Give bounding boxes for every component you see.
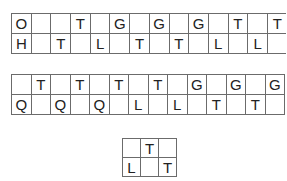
grid-cell: G bbox=[187, 75, 207, 95]
grid-cell bbox=[187, 95, 207, 115]
grid-cell: G bbox=[265, 75, 285, 95]
grid-cell bbox=[70, 95, 90, 115]
grid-cell: L bbox=[129, 95, 149, 115]
grid-cell: T bbox=[246, 95, 266, 115]
grid-cell: G bbox=[189, 14, 209, 34]
grid-cell: L bbox=[123, 158, 141, 177]
grid-cell: H bbox=[12, 34, 32, 54]
grid-cell bbox=[159, 139, 177, 158]
grid-cell bbox=[71, 34, 91, 54]
grid-cell: T bbox=[71, 14, 91, 34]
grid-cell: Q bbox=[12, 95, 32, 115]
grid-cell: T bbox=[148, 75, 168, 95]
grid-cell bbox=[141, 158, 159, 177]
grid-cell bbox=[208, 14, 228, 34]
grid-cell: O bbox=[12, 14, 32, 34]
grid-cell: T bbox=[130, 34, 150, 54]
grid-row: L T bbox=[123, 158, 177, 177]
grid-cell bbox=[130, 14, 150, 34]
grid-cell bbox=[90, 14, 110, 34]
grid-cell bbox=[129, 75, 149, 95]
grid-cell: T bbox=[159, 158, 177, 177]
grid-cell bbox=[267, 34, 286, 54]
grid-cell: G bbox=[110, 14, 130, 34]
grid-cell bbox=[169, 14, 189, 34]
grid-cell: L bbox=[168, 95, 188, 115]
grid-cell bbox=[228, 34, 248, 54]
grid-cell bbox=[168, 75, 188, 95]
grid-cell bbox=[149, 34, 169, 54]
letter-grid-1: O T G G G T T H T L T T L bbox=[11, 13, 286, 54]
letter-grid-3: T L T bbox=[122, 138, 177, 177]
grid-cell bbox=[246, 75, 266, 95]
grid-cell: G bbox=[226, 75, 246, 95]
grid-cell: L bbox=[248, 34, 268, 54]
grid-cell: T bbox=[31, 75, 51, 95]
grid-cell bbox=[123, 139, 141, 158]
grid-cell bbox=[207, 75, 227, 95]
grid-cell bbox=[248, 14, 268, 34]
grid-cell: T bbox=[228, 14, 248, 34]
grid-cell: T bbox=[51, 34, 71, 54]
grid-cell: Q bbox=[51, 95, 71, 115]
grid-row: T T T T G G G bbox=[12, 75, 285, 95]
grid-cell bbox=[265, 95, 285, 115]
grid-cell: T bbox=[207, 95, 227, 115]
grid-cell bbox=[90, 75, 110, 95]
grid-row: O T G G G T T bbox=[12, 14, 287, 34]
grid-cell bbox=[109, 95, 129, 115]
grid-row: Q Q Q L L T T bbox=[12, 95, 285, 115]
grid-cell: Q bbox=[90, 95, 110, 115]
grid-cell bbox=[31, 34, 51, 54]
grid-cell: T bbox=[70, 75, 90, 95]
grid-cell bbox=[226, 95, 246, 115]
grid-cell bbox=[51, 14, 71, 34]
grid-cell bbox=[31, 14, 51, 34]
grid-row: T bbox=[123, 139, 177, 158]
grid-cell: L bbox=[208, 34, 228, 54]
grid-cell: T bbox=[141, 139, 159, 158]
grid-cell bbox=[189, 34, 209, 54]
grid-cell: T bbox=[109, 75, 129, 95]
grid-cell bbox=[12, 75, 32, 95]
grid-cell bbox=[31, 95, 51, 115]
grid-cell: G bbox=[149, 14, 169, 34]
grid-cell: L bbox=[90, 34, 110, 54]
grid-cell: T bbox=[169, 34, 189, 54]
grid-cell: T bbox=[267, 14, 286, 34]
grid-cell bbox=[148, 95, 168, 115]
grid-row: H T L T T L L bbox=[12, 34, 287, 54]
letter-grid-2: T T T T G G G Q Q Q L L T T bbox=[11, 74, 285, 115]
grid-cell bbox=[51, 75, 71, 95]
grid-cell bbox=[110, 34, 130, 54]
